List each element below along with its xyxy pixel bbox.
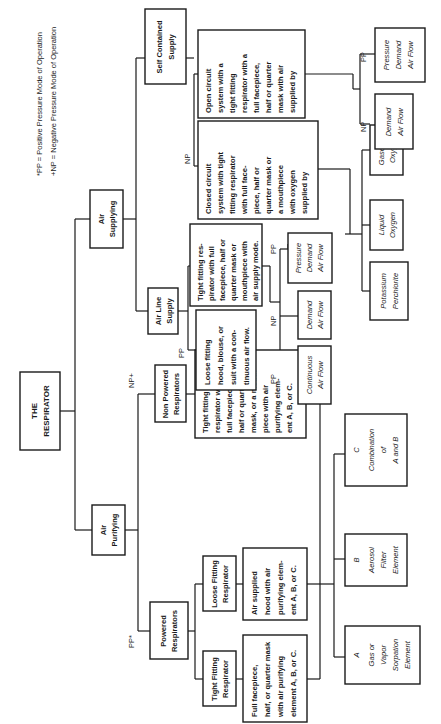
svg-text:C: C [352, 447, 361, 453]
svg-text:mask with air: mask with air [276, 65, 285, 113]
svg-text:supplied by: supplied by [288, 70, 297, 113]
node-tight-fitting-desc: Full facepiece, half, or quarter mask wi… [243, 635, 307, 722]
svg-text:Pressure: Pressure [382, 40, 391, 70]
svg-text:Supply: Supply [165, 298, 174, 324]
svg-text:ent A, B, or C.: ent A, B, or C. [285, 383, 294, 433]
node-element-a: A Gas or Vapor Sorpation Element [345, 626, 420, 684]
svg-text:Full facepiece,: Full facepiece, [250, 665, 259, 717]
svg-text:Combination: Combination [367, 429, 376, 472]
svg-text:with full face-: with full face- [240, 165, 249, 215]
node-loose-fitting-desc: Air supplied hood with air purifying ele… [243, 548, 307, 620]
svg-text:Demand: Demand [394, 40, 403, 69]
svg-text:air supply mode.: air supply mode. [251, 241, 260, 301]
svg-text:half or quarter: half or quarter [264, 61, 273, 113]
svg-text:RESPIRATOR: RESPIRATOR [42, 385, 51, 437]
svg-text:Vapor: Vapor [379, 645, 388, 665]
node-airline-pressure-demand-air-flow: Pressure Demand Air Flow [288, 233, 332, 283]
mode-label-pp-pressure-demand: PP [269, 244, 278, 254]
svg-text:Respirators: Respirators [170, 610, 179, 652]
svg-text:Non Powered: Non Powered [161, 369, 170, 418]
svg-text:Closed circuit: Closed circuit [204, 163, 213, 214]
respirator-classification-diagram: *PP = Positive Pressure Mode of Operatio… [0, 0, 441, 724]
mode-label-pp-continuous: PP [269, 374, 278, 384]
legend-pp: *PP = Positive Pressure Mode of Operatio… [35, 32, 44, 176]
svg-text:purifying elem-: purifying elem- [276, 560, 285, 615]
svg-text:a mouthpiece: a mouthpiece [276, 165, 285, 214]
svg-text:Air supplied: Air supplied [250, 571, 259, 615]
node-sc-pressure-demand-air-flow: Pressure Demand Air Flow [375, 28, 425, 82]
svg-text:pirator with full: pirator with full [207, 246, 216, 301]
svg-text:system with tight: system with tight [216, 152, 225, 214]
svg-text:Self Contained: Self Contained [155, 20, 164, 74]
svg-text:Open circuit: Open circuit [204, 68, 213, 113]
svg-text:suit with a con-: suit with a con- [229, 329, 238, 385]
svg-text:Respirator: Respirator [221, 565, 230, 603]
node-open-circuit-desc: Open circuit system with a tight fitting… [198, 30, 305, 118]
svg-text:Filter: Filter [379, 551, 388, 568]
mode-label-pp-powered: PP* [127, 635, 136, 648]
node-element-c: C Combination of A and B [345, 414, 407, 486]
svg-text:Purifying: Purifying [110, 513, 119, 546]
legend: *PP = Positive Pressure Mode of Operatio… [35, 27, 58, 176]
svg-text:tight fitting: tight fitting [228, 73, 237, 113]
node-self-contained-supply: Self Contained Supply [145, 9, 186, 84]
svg-text:Supply: Supply [167, 34, 176, 60]
node-element-b: B Aerosol Filter Element [345, 534, 407, 586]
svg-text:Tight fitting res-: Tight fitting res- [196, 243, 205, 301]
svg-text:of: of [379, 446, 388, 453]
mode-label-pp-airline-loose: PP [177, 348, 186, 358]
svg-text:piece, half or: piece, half or [252, 167, 261, 214]
svg-text:piece with air: piece with air [261, 385, 270, 433]
svg-text:ent A, B, or C.: ent A, B, or C. [289, 565, 298, 615]
svg-text:Air Flow: Air Flow [316, 301, 325, 330]
svg-text:Perchlorite: Perchlorite [391, 273, 400, 309]
svg-text:A and B: A and B [391, 437, 400, 465]
node-non-powered-respirators: Non Powered Respirators [155, 365, 186, 422]
svg-text:Potassium: Potassium [379, 273, 388, 308]
node-air-line-loose-desc: Loose fitting hood, blouse, or suit with… [196, 310, 256, 390]
svg-text:Tight Fitting: Tight Fitting [210, 657, 219, 701]
mode-label-np-nonpowered: NP+ [127, 373, 136, 388]
svg-text:Sorpation: Sorpation [391, 639, 400, 672]
mode-label-np-sc-demand: NP [359, 122, 368, 132]
svg-text:hood with air: hood with air [263, 568, 272, 615]
svg-text:full facepiece,: full facepiece, [252, 63, 261, 113]
node-the-respirator: THE RESPIRATOR [20, 372, 60, 450]
svg-text:Pressure: Pressure [294, 243, 303, 273]
mode-label-np-closed: NP [183, 154, 192, 164]
svg-text:Continuous: Continuous [305, 356, 314, 395]
svg-text:mouthpiece with: mouthpiece with [240, 241, 249, 301]
svg-text:with oxygen: with oxygen [288, 170, 297, 215]
svg-text:Aerosol: Aerosol [367, 547, 376, 574]
svg-text:Air Flow: Air Flow [316, 361, 325, 390]
svg-text:Powered: Powered [159, 615, 168, 647]
svg-text:B: B [352, 557, 361, 562]
svg-text:Respirator: Respirator [221, 660, 230, 698]
node-liquid-oxygen: Liquid Oxygen [370, 200, 403, 250]
node-closed-circuit-desc: Closed circuit system with tight fitting… [198, 121, 318, 219]
node-loose-fitting-respirator: Loose Fitting Respirator [203, 556, 236, 611]
node-powered-respirators: Powered Respirators [150, 602, 188, 659]
svg-text:quarter mask or: quarter mask or [264, 157, 273, 214]
svg-text:Loose fitting: Loose fitting [203, 339, 212, 385]
svg-text:Element: Element [391, 545, 400, 574]
svg-text:with air purifying: with air purifying [276, 655, 285, 718]
node-air-supplying: Air Supplying [90, 190, 123, 248]
node-potassium-perchlorite: Potassium Perchlorite [370, 262, 408, 320]
node-air-line-tight-desc: Tight fitting res- pirator with full fac… [190, 224, 262, 306]
svg-text:Oxygen: Oxygen [388, 212, 397, 238]
svg-text:half, or quarter mask: half, or quarter mask [263, 641, 272, 717]
node-tight-fitting-respirator: Tight Fitting Respirator [203, 651, 236, 706]
svg-text:hood, blouse, or: hood, blouse, or [216, 326, 225, 385]
node-air-purifying: Air Purifying [92, 505, 125, 555]
svg-text:supplied by: supplied by [300, 171, 309, 214]
node-air-line-supply: Air Line Supply [148, 288, 178, 334]
svg-text:Air: Air [97, 214, 106, 225]
svg-text:Gas or: Gas or [367, 643, 376, 666]
svg-text:Air Flow: Air Flow [396, 108, 405, 137]
svg-text:fitting respirator: fitting respirator [228, 155, 237, 214]
svg-text:THE: THE [30, 402, 39, 419]
svg-text:Supplying: Supplying [108, 200, 117, 237]
svg-text:Tight fitting: Tight fitting [201, 391, 210, 433]
svg-text:Air Line: Air Line [154, 297, 163, 325]
